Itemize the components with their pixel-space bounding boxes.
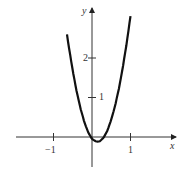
chart: y x −1 1 1 2	[0, 0, 189, 177]
y-axis-label: y	[81, 5, 87, 16]
x-tick-label-1: 1	[128, 144, 133, 155]
x-axis-label: x	[169, 140, 175, 151]
y-tick-label-2: 2	[83, 52, 88, 63]
curve-line	[67, 16, 131, 142]
plot-area: y x −1 1 1 2	[0, 0, 189, 177]
y-tick-label-1: 1	[99, 91, 104, 102]
x-tick-label-neg1: −1	[45, 144, 56, 155]
